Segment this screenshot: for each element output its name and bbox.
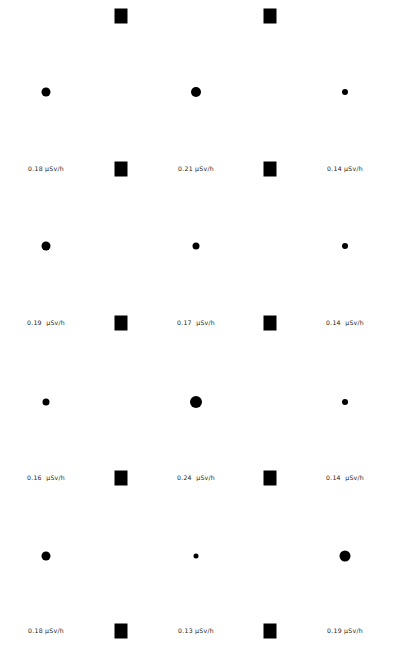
circle-marker	[340, 551, 351, 562]
dose-rate-label: 0.14 μSv/h	[327, 166, 363, 172]
square-marker	[264, 162, 277, 177]
square-marker	[264, 9, 277, 24]
square-marker	[264, 471, 277, 486]
dose-rate-label: 0.18 μSv/h	[28, 628, 64, 634]
dose-rate-label: 0.21 μSv/h	[178, 166, 214, 172]
circle-marker	[190, 396, 202, 408]
circle-marker	[42, 88, 51, 97]
dose-rate-label: 0.18 μSv/h	[28, 166, 64, 172]
dose-rate-label: 0.19 μSv/h	[327, 628, 363, 634]
square-marker	[115, 162, 128, 177]
square-marker	[264, 316, 277, 331]
square-marker	[115, 471, 128, 486]
circle-marker	[42, 242, 51, 251]
circle-marker	[342, 89, 348, 95]
dose-rate-label: 0.24 μSv/h	[177, 475, 215, 481]
circle-marker	[191, 87, 201, 97]
dose-rate-label: 0.17 μSv/h	[177, 320, 215, 326]
square-marker	[115, 9, 128, 24]
square-marker	[264, 624, 277, 639]
dose-rate-label: 0.14 μSv/h	[326, 320, 364, 326]
circle-marker	[43, 399, 50, 406]
circle-marker	[42, 552, 51, 561]
dose-rate-label: 0.19 μSv/h	[27, 320, 65, 326]
square-marker	[115, 624, 128, 639]
circle-marker	[194, 554, 199, 559]
circle-marker	[342, 243, 348, 249]
dose-rate-label: 0.14 μSv/h	[326, 475, 364, 481]
dose-rate-label: 0.16 μSv/h	[27, 475, 65, 481]
dose-rate-label: 0.13 μSv/h	[178, 628, 214, 634]
dose-rate-map: 0.18 μSv/h0.21 μSv/h0.14 μSv/h0.19 μSv/h…	[0, 0, 398, 646]
circle-marker	[342, 399, 348, 405]
square-marker	[115, 316, 128, 331]
circle-marker	[193, 243, 200, 250]
